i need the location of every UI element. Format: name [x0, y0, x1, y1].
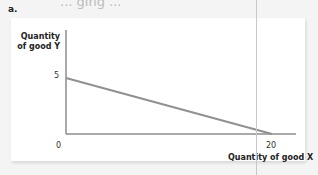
- vertical-guide-line: [256, 0, 257, 175]
- y-tick-5: 5: [54, 71, 59, 80]
- y-axis-label: Quantity of good Y: [16, 32, 60, 52]
- origin-label: 0: [56, 141, 61, 150]
- budget-line: [66, 78, 272, 134]
- x-tick-20: 20: [266, 141, 276, 150]
- x-axis-label: Quantity of good X: [228, 153, 313, 162]
